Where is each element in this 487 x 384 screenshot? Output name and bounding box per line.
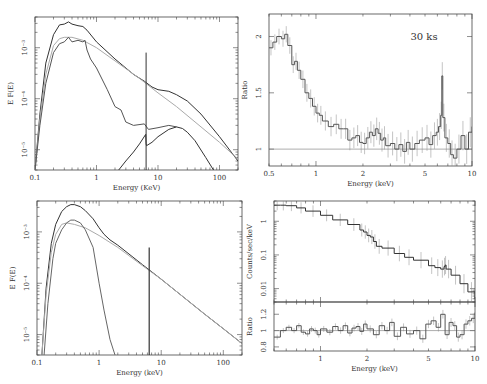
model-curve	[35, 37, 238, 170]
x-axis-label: Energy (keV)	[351, 365, 398, 373]
x-tick-label: 1	[97, 359, 101, 367]
model-curve	[42, 223, 242, 355]
y-tick-label: 1	[260, 328, 268, 332]
x-tick-label: 100	[213, 174, 226, 182]
data-series	[269, 34, 474, 158]
x-axis-label: Energy (keV)	[116, 369, 163, 377]
model-curve	[42, 205, 242, 355]
model-curve	[119, 127, 214, 170]
y-tick-label: 10⁻⁴	[23, 275, 31, 291]
x-axis-label: Energy (KeV)	[113, 184, 161, 192]
y-axis-label: E F(E)	[9, 266, 17, 289]
x-tick-label: 10	[471, 355, 480, 363]
y-tick-label: 10⁻⁵	[23, 327, 31, 343]
model-curve	[35, 37, 177, 170]
x-tick-label: 10	[468, 170, 477, 178]
y-tick-label: 1.2	[260, 309, 268, 320]
panel-bottom-right-ratio: 125100.811.2Energy (keV)Ratio	[246, 302, 479, 373]
plot-frame	[274, 201, 475, 302]
x-tick-label: 10	[154, 174, 163, 182]
x-tick-label: 1	[314, 170, 318, 178]
x-tick-label: 0.1	[31, 359, 42, 367]
panel-top-left: 0.111010010⁻⁵10⁻⁴10⁻³Energy (KeV)E F(E)	[7, 17, 238, 192]
panel-top-right: 0.51251011.52Energy (keV)Ratio	[241, 14, 476, 188]
x-tick-label: 10	[157, 359, 166, 367]
x-tick-label: 5	[423, 170, 427, 178]
x-tick-label: 100	[217, 359, 230, 367]
y-axis-label: Ratio	[241, 81, 249, 100]
y-tick-label: 10⁻⁴	[21, 91, 29, 107]
x-tick-label: 5	[426, 355, 430, 363]
y-tick-label: 0.8	[260, 341, 268, 352]
x-axis-label: Energy (keV)	[347, 180, 394, 188]
y-tick-label: 1.5	[255, 87, 263, 98]
y-tick-label: 10⁻³	[23, 224, 31, 240]
y-tick-label: 10⁻³	[21, 40, 29, 56]
y-tick-label: 2	[255, 34, 263, 38]
y-tick-label: 1	[260, 219, 268, 223]
x-tick-label: 1	[94, 174, 98, 182]
plot-frame	[37, 201, 242, 355]
y-axis-label: Counts/sec/keV	[246, 223, 254, 279]
y-axis-label: E F(E)	[7, 82, 15, 105]
x-tick-label: 2	[361, 170, 365, 178]
panel-bottom-right-spectrum: 0.010.11Counts/sec/keV	[246, 200, 477, 309]
y-tick-label: 0.01	[260, 281, 268, 297]
x-tick-label: 2	[365, 355, 369, 363]
y-tick-label: 10⁻⁵	[21, 142, 29, 158]
y-tick-label: 1	[255, 147, 263, 151]
y-tick-label: 0.1	[260, 249, 268, 260]
figure-canvas: 0.111010010⁻⁵10⁻⁴10⁻³Energy (KeV)E F(E) …	[0, 0, 487, 384]
data-series	[274, 313, 477, 339]
x-tick-label: 0.5	[263, 170, 274, 178]
exposure-annotation: 30 ks	[410, 31, 437, 42]
x-tick-label: 1	[318, 355, 322, 363]
x-tick-label: 0.1	[29, 174, 40, 182]
data-series	[274, 205, 477, 299]
panel-bottom-left: 0.111010010⁻⁵10⁻⁴10⁻³Energy (keV)E F(E)	[9, 201, 242, 377]
y-axis-label: Ratio	[246, 317, 254, 336]
